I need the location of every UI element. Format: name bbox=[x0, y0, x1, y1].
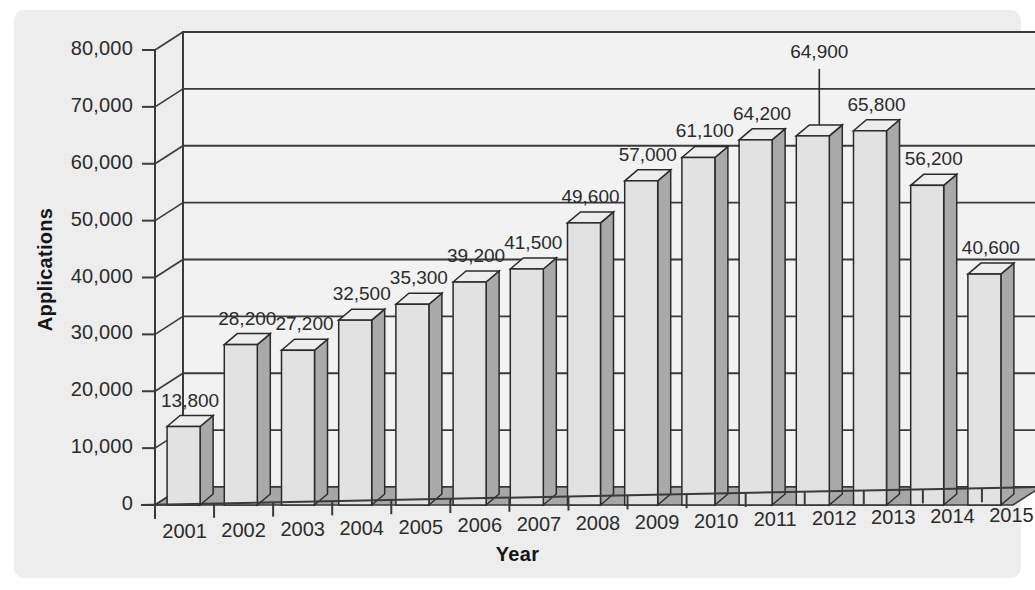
bar-value-label: 57,000 bbox=[606, 144, 690, 166]
y-axis-tick-label: 50,000 bbox=[0, 208, 133, 231]
y-axis-tick-label: 60,000 bbox=[0, 151, 133, 174]
bar-value-label: 35,300 bbox=[377, 267, 461, 289]
bar-value-label: 41,500 bbox=[491, 232, 575, 254]
bar bbox=[396, 293, 442, 505]
bar-value-label: 40,600 bbox=[949, 237, 1033, 259]
y-axis-tick-label: 30,000 bbox=[0, 321, 133, 344]
y-axis-tick-label: 70,000 bbox=[0, 94, 133, 117]
bar bbox=[167, 416, 213, 505]
y-axis-tick-label: 20,000 bbox=[0, 378, 133, 401]
bar-value-label: 27,200 bbox=[263, 313, 347, 335]
bar bbox=[625, 170, 671, 505]
bar-value-label: 13,800 bbox=[148, 390, 232, 412]
bar bbox=[796, 125, 842, 505]
y-axis-tick-label: 80,000 bbox=[0, 37, 133, 60]
bar bbox=[911, 174, 957, 505]
bar bbox=[453, 271, 499, 505]
bar bbox=[339, 309, 385, 505]
y-axis-tick-label: 40,000 bbox=[0, 265, 133, 288]
chart-canvas bbox=[0, 0, 1035, 590]
bar-value-label: 64,200 bbox=[720, 103, 804, 125]
bar bbox=[968, 263, 1014, 505]
bar bbox=[224, 334, 270, 505]
y-axis-tick-label: 10,000 bbox=[0, 435, 133, 458]
y-axis-tick-label: 0 bbox=[0, 492, 133, 515]
bar bbox=[854, 120, 900, 505]
bar-value-label: 65,800 bbox=[835, 94, 919, 116]
bar-value-label: 64,900 bbox=[777, 41, 861, 63]
bar bbox=[682, 146, 728, 505]
bar-chart-3d: 010,00020,00030,00040,00050,00060,00070,… bbox=[0, 0, 1035, 590]
bar bbox=[739, 129, 785, 505]
x-axis-title: Year bbox=[0, 543, 1035, 566]
bar bbox=[568, 212, 614, 505]
bar bbox=[282, 339, 328, 505]
bar-value-label: 49,600 bbox=[549, 186, 633, 208]
bar-value-label: 56,200 bbox=[892, 148, 976, 170]
y-axis-title: Applications bbox=[34, 195, 57, 345]
x-axis-tick-label: 2015 bbox=[976, 504, 1035, 527]
bar bbox=[510, 258, 556, 505]
